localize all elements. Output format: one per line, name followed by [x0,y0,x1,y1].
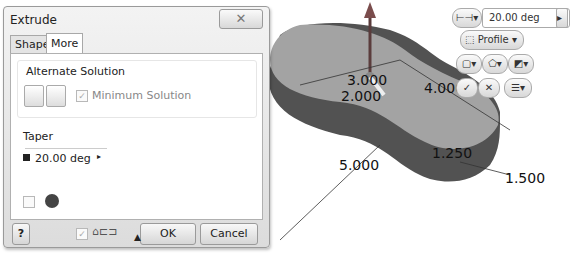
dimension-2000[interactable]: 2.000 [341,88,381,104]
extrude-dialog: Extrude ✕ Shape More Alternate Solution … [3,6,270,248]
profile-icon: ⬚ [465,34,474,45]
options-dropdown[interactable]: ☰▾ [504,78,532,98]
distance-arrow-button[interactable]: ▸ [556,8,568,28]
ok-button-dialog[interactable]: OK [140,223,196,245]
more-panel: Alternate Solution ✓ Minimum Solution Ta… [10,53,263,220]
direction-dropdown[interactable]: ◩▾ [508,54,534,74]
dimension-3000[interactable]: 3.000 [347,72,387,88]
minimum-solution-checkbox[interactable]: ✓ [76,90,88,102]
expand-icon[interactable]: ▲ [134,232,141,242]
operation-dropdown[interactable]: ⬠▾ [482,54,508,74]
alternate-solution-label: Alternate Solution [26,65,125,78]
alternate-solution-2-icon[interactable] [46,85,66,107]
dimension-1250[interactable]: 1.250 [432,145,472,161]
dimension-5000[interactable]: 5.000 [339,157,379,173]
alternate-solution-1-icon[interactable] [24,85,44,107]
taper-input[interactable]: 20.00 deg ▸ [25,148,107,167]
alternate-solution-group: Alternate Solution ✓ Minimum Solution [17,60,257,118]
profile-button[interactable]: ⬚ Profile ▾ [460,30,524,50]
distance-type-dropdown[interactable]: ⊢⊣▾ [452,8,482,28]
globe-icon[interactable] [45,194,59,208]
match-shape-checkbox[interactable] [23,196,35,208]
ok-button[interactable]: ✓ [456,78,478,98]
preview-checkbox[interactable]: ✓ [76,228,88,240]
close-icon[interactable]: ✕ [219,9,263,29]
tab-more[interactable]: More [46,33,83,54]
help-button[interactable]: ? [12,223,30,245]
dialog-title: Extrude [10,13,57,27]
minimum-solution-label: Minimum Solution [92,89,191,102]
title-bar[interactable]: Extrude ✕ [4,7,269,31]
preview-glasses-icon: ⌂⊏⊐ [92,225,117,238]
direction-arrow-icon [364,2,376,18]
cancel-button[interactable]: Cancel [200,223,258,245]
output-dropdown[interactable]: ▢▾ [456,54,482,74]
dimension-1500[interactable]: 1.500 [505,170,545,186]
cancel-button-mini[interactable]: ✕ [478,78,500,98]
taper-label: Taper [23,130,53,143]
taper-arrow-icon[interactable]: ▸ [97,152,101,161]
